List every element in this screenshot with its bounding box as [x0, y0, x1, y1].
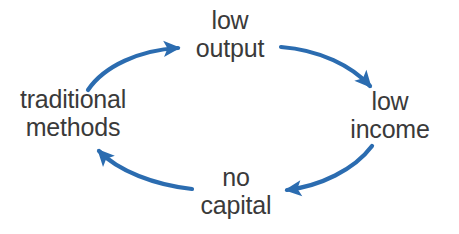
arrow-low-output-to-low-income [281, 47, 370, 86]
node-low-income-line1: low [350, 87, 429, 115]
node-no-capital-line2: capital [201, 191, 272, 219]
node-traditional-methods-line1: traditional [20, 85, 126, 113]
node-traditional-methods: traditional methods [20, 85, 126, 141]
node-no-capital-line1: no [201, 163, 272, 191]
arrow-no-capital-to-traditional [99, 151, 192, 189]
node-low-output-line1: low [196, 6, 264, 34]
arrow-low-income-to-no-capital [287, 146, 372, 190]
node-low-output: low output [196, 6, 264, 62]
node-no-capital: no capital [201, 163, 272, 219]
node-low-output-line2: output [196, 34, 264, 62]
node-traditional-methods-line2: methods [20, 113, 126, 141]
poverty-cycle-diagram: low output low income no capital traditi… [0, 0, 459, 234]
node-low-income-line2: income [350, 115, 429, 143]
node-low-income: low income [350, 87, 429, 143]
arrow-traditional-to-low-output [88, 48, 178, 90]
